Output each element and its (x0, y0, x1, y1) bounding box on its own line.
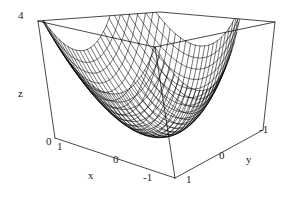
z-axis-tick-4: 4 (18, 10, 24, 21)
x-axis-label: x (88, 170, 94, 181)
y-axis-tick-1: 1 (186, 174, 192, 185)
z-axis-tick-0: 0 (46, 136, 52, 147)
y-axis-label: y (246, 154, 252, 165)
y-axis-tick-0: 0 (219, 150, 225, 161)
z-axis-label: z (18, 88, 23, 99)
x-axis-tick--1: -1 (143, 172, 152, 183)
x-axis-tick-0: 0 (113, 154, 119, 165)
x-axis-tick-1: 1 (57, 141, 63, 152)
y-axis-tick--1: -1 (259, 124, 268, 135)
plot-canvas: 4 z 0 1 0 -1 x 1 0 -1 y (0, 0, 290, 207)
